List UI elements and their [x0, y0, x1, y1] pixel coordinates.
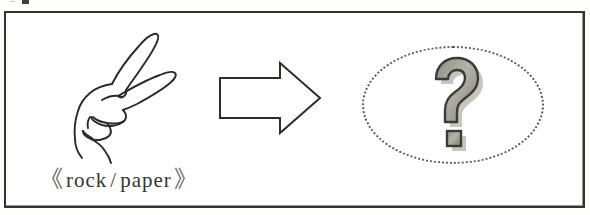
scan-artifact-line	[10, 1, 15, 2]
gesture-caption: 《rock/paper》	[38, 160, 200, 194]
caption-separator: /	[107, 168, 120, 192]
unknown-outcome-group	[362, 46, 544, 164]
right-arrow-outline-icon	[218, 60, 322, 136]
caption-close-bracket: 》	[172, 167, 200, 192]
hand-gesture-scissors-icon	[44, 22, 184, 164]
scan-artifact-smudge	[22, 0, 29, 4]
caption-left-term: rock	[66, 168, 107, 192]
caption-open-bracket: 《	[38, 167, 66, 192]
question-mark-icon	[414, 54, 492, 154]
figure-canvas: 《rock/paper》	[0, 0, 590, 215]
caption-right-term: paper	[120, 168, 172, 192]
